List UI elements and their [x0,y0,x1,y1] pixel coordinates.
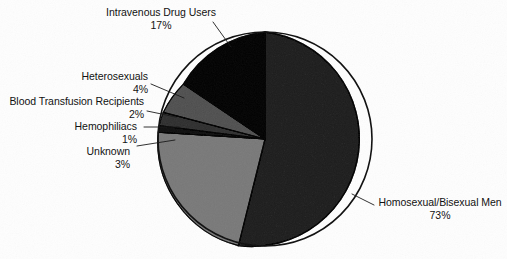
pie-label-name: Heterosexuals [0,70,148,83]
pie-label-hemophiliacs: Hemophiliacs 1% [0,120,137,145]
pie-chart-figure: Intravenous Drug Users 17% Heterosexuals… [0,0,507,259]
pie-label-percent: 1% [0,133,137,146]
pie-label-percent: 2% [0,108,144,121]
pie-label-unknown: Unknown 3% [0,145,130,170]
pie-label-percent: 73% [376,209,504,222]
pie-label-name: Homosexual/Bisexual Men [376,196,504,209]
pie-label-intravenous-drug-users: Intravenous Drug Users 17% [96,6,226,31]
pie-label-percent: 17% [96,19,226,32]
pie-label-percent: 4% [0,83,148,96]
pie-label-name: Blood Transfusion Recipients [0,95,144,108]
pie-label-percent: 3% [0,158,130,171]
pie-label-blood-transfusion-recipients: Blood Transfusion Recipients 2% [0,95,144,120]
pie-label-name: Unknown [0,145,130,158]
pie-label-name: Intravenous Drug Users [96,6,226,19]
pie-label-name: Hemophiliacs [0,120,137,133]
pie-label-homosexual-bisexual-men: Homosexual/Bisexual Men 73% [376,196,504,221]
pie-label-heterosexuals: Heterosexuals 4% [0,70,148,95]
